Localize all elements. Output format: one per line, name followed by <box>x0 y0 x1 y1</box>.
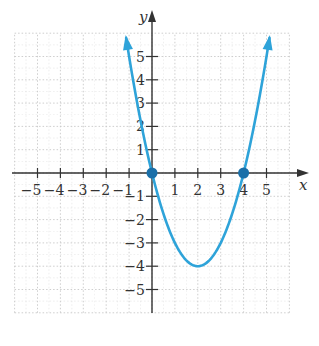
x-tick-label: 2 <box>193 182 202 198</box>
x-tick-label: −3 <box>67 182 88 198</box>
intercept-point <box>238 168 249 179</box>
y-tick-label: −4 <box>124 258 145 274</box>
y-axis-label: y <box>138 8 148 26</box>
x-axis-label: x <box>299 176 308 194</box>
y-tick-label: −5 <box>124 282 145 298</box>
x-tick-label: 5 <box>262 182 271 198</box>
y-tick-label: −1 <box>124 188 145 204</box>
y-tick-label: −2 <box>124 212 145 228</box>
x-tick-label: 1 <box>170 182 179 198</box>
parabola-chart: x y −5−4−3−2−112345 54321−1−2−3−4−5 <box>0 0 319 346</box>
y-tick-label: 5 <box>136 49 145 65</box>
curve-arrow-icon <box>123 35 133 51</box>
axes: x y <box>12 8 309 313</box>
y-tick-label: 1 <box>136 142 145 158</box>
x-tick-label: 3 <box>216 182 225 198</box>
intercept-point <box>147 168 158 179</box>
y-tick-label: −3 <box>124 235 145 251</box>
y-axis-arrow-icon <box>148 10 156 22</box>
curve-arrow-icon <box>263 35 273 51</box>
x-tick-label: −5 <box>21 182 42 198</box>
y-tick-label: 4 <box>136 72 145 88</box>
x-tick-label: −4 <box>44 182 65 198</box>
x-tick-label: −2 <box>90 182 111 198</box>
